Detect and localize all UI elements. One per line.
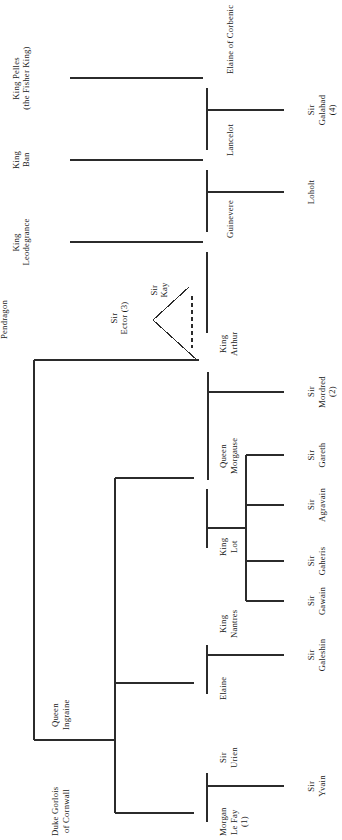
person-label-lot: King Lot: [198, 538, 259, 556]
person-label-gareth: Sir Gareth: [286, 443, 342, 468]
person-name: King Nantres: [218, 610, 238, 638]
person-label-pelles: King Pelles (the Fisher King): [0, 46, 52, 109]
person-name: King Uther Pendragon: [0, 300, 10, 339]
person-label-urien: Sir Urien: [198, 747, 259, 768]
person-name: Lancelot: [225, 124, 235, 156]
person-label-gaheris: Sir Gaheris: [286, 547, 342, 575]
person-name: Sir Urien: [218, 747, 238, 768]
line-ector-to-arthur: [153, 320, 197, 360]
person-name: Morgan Le Fay (1): [218, 807, 249, 836]
person-name: Sir Ector (3): [109, 302, 129, 335]
person-label-guinevere: Guinevere: [205, 200, 256, 238]
person-label-mordred: Sir Mordred (2): [286, 376, 342, 408]
person-name: Elaine of Corbenic: [225, 5, 235, 74]
person-name: King Ban: [11, 151, 31, 169]
person-label-morgan-le-fay: Morgan Le Fay (1): [198, 807, 269, 836]
person-name: Elaine: [218, 677, 228, 700]
person-name: Sir Yvain: [306, 775, 326, 796]
person-label-kay: Sir Kay: [129, 282, 190, 297]
person-name: Queen Morgause: [218, 438, 238, 474]
person-name: Sir Galeshin: [306, 639, 326, 671]
person-name: Sir Mordred (2): [306, 376, 337, 408]
person-label-galeshin: Sir Galeshin: [286, 639, 342, 671]
person-name: Duke Gorlois of Cornwall: [50, 787, 70, 836]
person-label-arthur: King Arthur: [198, 332, 259, 356]
person-label-agravain: Sir Agravain: [286, 488, 342, 522]
person-name: Loholt: [306, 180, 316, 204]
person-name: Sir Gawain: [306, 587, 326, 615]
person-label-ingraine: Queen Ingraine: [30, 699, 91, 730]
person-label-morgause: Queen Morgause: [198, 438, 259, 474]
person-name: King Pelles (the Fisher King): [11, 46, 31, 109]
person-name: King Leodegrance: [11, 218, 31, 265]
person-name: Queen Ingraine: [50, 699, 70, 730]
person-label-gorlois: Duke Gorlois of Cornwall: [30, 787, 91, 836]
person-label-galahad: Sir Galahad (4): [286, 95, 342, 125]
person-name: Guinevere: [225, 200, 235, 238]
person-name: Sir Galahad (4): [306, 95, 337, 125]
person-label-ban: King Ban: [0, 151, 52, 169]
person-name: King Lot: [218, 538, 238, 556]
person-label-lancelot: Lancelot: [205, 124, 256, 156]
person-label-elaine: Elaine: [198, 677, 249, 700]
person-label-leodegrance: King Leodegrance: [0, 218, 52, 265]
person-label-nantres: King Nantres: [198, 610, 259, 638]
person-name: Sir Kay: [149, 282, 169, 297]
person-label-elaine-of-corbenic: Elaine of Corbenic: [205, 5, 256, 74]
person-label-yvain: Sir Yvain: [286, 775, 342, 796]
person-name: King Arthur: [218, 332, 238, 356]
person-label-loholt: Loholt: [286, 180, 337, 204]
person-label-gawain: Sir Gawain: [286, 587, 342, 615]
person-name: Sir Gareth: [306, 443, 326, 468]
person-name: Sir Agravain: [306, 488, 326, 522]
person-label-uther: King Uther Pendragon: [0, 300, 30, 339]
person-label-ector: Sir Ector (3): [89, 302, 150, 335]
person-name: Sir Gaheris: [306, 547, 326, 575]
